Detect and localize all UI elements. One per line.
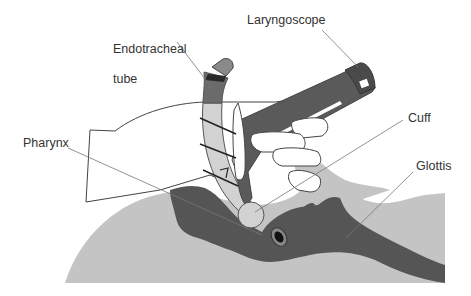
label-pharynx: Pharynx xyxy=(23,136,69,151)
label-cuff: Cuff xyxy=(408,111,431,126)
label-endotracheal-line2: tube xyxy=(113,72,137,86)
label-glottis: Glottis xyxy=(416,159,451,174)
leader-laryngoscope xyxy=(322,30,358,67)
intubation-diagram xyxy=(0,0,471,296)
label-endotracheal-tube: Endotracheal tube xyxy=(106,27,187,87)
cuff xyxy=(238,202,264,228)
label-endotracheal-line1: Endotracheal xyxy=(113,42,187,56)
finger-3 xyxy=(273,148,321,166)
tube-connector xyxy=(212,59,233,76)
label-laryngoscope: Laryngoscope xyxy=(247,13,326,28)
